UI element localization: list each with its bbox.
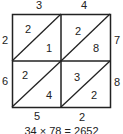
cell-4-upper: 3 — [72, 72, 82, 83]
bottom-result-digit-1: 5 — [32, 111, 42, 122]
bottom-result-digit-2: 2 — [77, 112, 87, 123]
equation-caption: 34 × 78 = 2652 — [0, 126, 123, 134]
right-digit-2: 8 — [112, 77, 122, 88]
cell-4-lower: 2 — [89, 90, 99, 101]
top-digit-2: 4 — [79, 0, 89, 11]
cell-1-upper: 2 — [23, 24, 33, 35]
cell-2-upper: 2 — [73, 26, 83, 37]
cell-3-lower: 4 — [44, 90, 54, 101]
top-digit-1: 3 — [34, 0, 44, 11]
left-result-digit-2: 6 — [0, 76, 10, 87]
lattice-grid — [0, 0, 123, 134]
cell-3-upper: 2 — [20, 70, 30, 81]
cell-1-lower: 1 — [44, 43, 54, 54]
cell-2-lower: 8 — [91, 43, 101, 54]
left-result-digit-1: 2 — [0, 35, 10, 46]
right-digit-1: 7 — [112, 35, 122, 46]
